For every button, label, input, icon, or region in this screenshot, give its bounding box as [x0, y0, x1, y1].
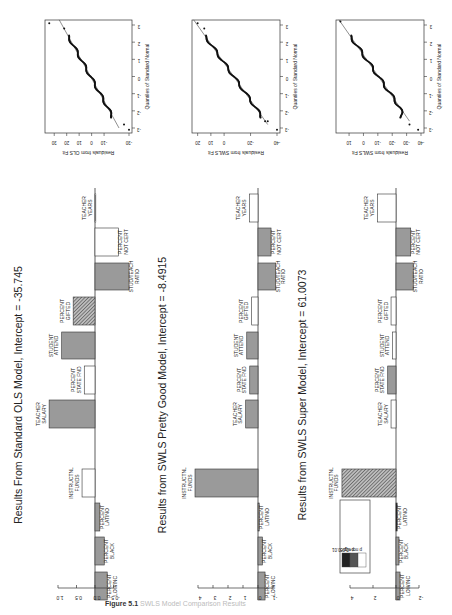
bar-label-line2: SALARY: [237, 404, 243, 424]
outlier-point: [417, 129, 419, 131]
chart-title: Results From Standard OLS Model, Interce…: [12, 266, 24, 524]
y-tick-label: -30: [125, 140, 132, 145]
bar-label-line2: GIFTED: [65, 301, 71, 320]
bar: [82, 469, 95, 497]
x-tick-label: 3: [285, 24, 288, 29]
legend-swatch: [358, 553, 366, 567]
x-tick-label: -1: [285, 93, 289, 98]
bar-label: STUD/TEACHRATIO: [412, 260, 424, 292]
bar-label-line2: LATINO: [104, 508, 110, 526]
plot-frame: [336, 20, 424, 133]
bar: [95, 228, 118, 256]
bar-label-line2: GIFTED: [383, 301, 389, 320]
bar: [342, 469, 396, 497]
bar: [396, 228, 411, 256]
chart-title: Results from SWLS Super Model, Intercept…: [296, 270, 308, 521]
chart-title: Results from SWLS Pretty Good Model, Int…: [156, 257, 168, 533]
outlier-point: [276, 129, 278, 131]
bar: [252, 297, 258, 325]
bar-label: STUDENTATTEND: [48, 334, 60, 358]
x-tick-label: 1: [429, 58, 432, 63]
axis-tick-label: -2: [419, 595, 424, 601]
legend-swatch: [342, 553, 350, 567]
y-tick-label: -10: [100, 140, 107, 145]
bar: [249, 194, 258, 222]
bar-label: PERCENTSTATE FND: [374, 366, 386, 393]
bar: [391, 400, 396, 428]
figure-svg: Results From Standard OLS Model, Interce…: [0, 0, 452, 615]
x-tick-label: 2: [429, 41, 432, 46]
qq-plot-2: -3-2-10123Quantiles of Standard Normal20…: [192, 20, 298, 156]
bar: [388, 366, 396, 394]
bar-label: PERCENTLOWINC: [399, 574, 411, 598]
bar-label-line2: ATTEND: [238, 335, 244, 355]
bar: [95, 194, 96, 222]
bar: [49, 400, 95, 428]
outlier-point: [267, 120, 269, 122]
x-tick-label: 0: [137, 76, 140, 81]
caption-label: Figure 5.1: [105, 600, 138, 607]
bar-label-line2: BLACK: [403, 542, 409, 559]
data-point: [68, 34, 70, 36]
outlier-point: [264, 120, 266, 122]
bar-label-line2: RATIO: [418, 269, 424, 284]
plot-frame: [192, 20, 280, 133]
outlier-point: [197, 22, 199, 24]
bar-label: TEACHERSALARY: [377, 402, 389, 426]
bar-chart-2: Results from SWLS Pretty Good Model, Int…: [156, 188, 286, 601]
bar-label-line2: NOT CERT: [415, 229, 421, 254]
qq-plot-1: -3-2-10123Quantiles of Standard Normal30…: [45, 20, 150, 156]
bar-label-line2: GIFTED: [243, 301, 249, 320]
bar-label: PERCENTSTATE FND: [70, 366, 82, 393]
bar: [258, 263, 276, 290]
x-tick-label: -1: [429, 93, 433, 98]
bar-label-line2: RATIO: [134, 269, 140, 284]
bar-label: STUDENTATTEND: [379, 334, 391, 358]
bar-label: TEACHERSALARY: [232, 402, 244, 426]
bar-chart-1: Results From Standard OLS Model, Interce…: [12, 188, 140, 601]
bar-label: PERCENTNOT CERT: [270, 229, 282, 254]
x-tick-label: 0: [285, 76, 288, 81]
y-tick-label: -40: [273, 140, 280, 145]
x-tick-label: -2: [285, 110, 289, 115]
axis-tick-label: 1.0: [56, 595, 63, 601]
outlier-point: [128, 129, 130, 131]
bar: [393, 332, 396, 359]
bar-label-line2: BLACK: [267, 542, 273, 559]
bar-label-line2: LOWINC: [112, 576, 118, 596]
significance-legend: p<0.01p<0.05p not sig: [332, 500, 370, 573]
axis-tick-label: 4: [350, 595, 353, 601]
x-tick-label: 3: [429, 24, 432, 29]
outlier-point: [339, 21, 341, 23]
bar-label-line2: NOT CERT: [276, 229, 282, 254]
bar: [391, 297, 396, 325]
bar-label-line2: YEARS: [369, 199, 375, 217]
y-tick-label: 10: [346, 140, 352, 145]
y-tick-label: 10: [76, 140, 82, 145]
bar: [95, 263, 129, 290]
bar-label: PERCENTNOT CERT: [117, 229, 129, 254]
bar-label: PERCENTLOWINC: [106, 574, 118, 598]
x-tick-label: 0: [429, 76, 432, 81]
bar-label-line2: STATE FND: [241, 366, 247, 393]
bar-label-line2: FUNDS: [187, 474, 193, 492]
bar-label: PERCENTLATINO: [99, 505, 111, 529]
bar-label: PERCENTLOWINC: [264, 574, 276, 598]
bar-label: PERCENTNOT CERT: [410, 229, 422, 254]
legend-swatch: [350, 553, 358, 567]
x-axis-label: Quantiles of Standard Normal: [292, 44, 298, 110]
qq-plot-3: -3-2-10123Quantiles of Standard Normal10…: [336, 20, 442, 156]
outlier-point: [123, 124, 125, 126]
reference-line: [59, 20, 119, 128]
bar-label: INSTRUCTNLFUNDS: [328, 467, 340, 499]
bar-label-line2: LATINO: [264, 508, 270, 526]
x-tick-label: 3: [137, 24, 140, 29]
bar-label-line2: NOT CERT: [123, 229, 129, 254]
x-tick-label: 1: [285, 58, 288, 63]
x-axis-label: Quantiles of Standard Normal: [144, 44, 150, 110]
bar: [62, 332, 95, 359]
y-tick-label: -10: [374, 140, 381, 145]
y-axis-label: Residuals from SWLS Fit: [207, 150, 263, 156]
bar-label-line2: RATIO: [280, 269, 286, 284]
bar-label-line2: LOWINC: [405, 576, 411, 596]
